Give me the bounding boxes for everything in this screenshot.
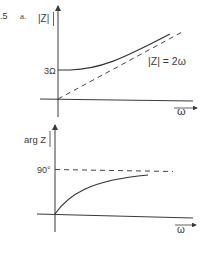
phase-curve <box>55 175 148 214</box>
asymptote-90deg <box>55 170 173 172</box>
top-x-axis-label: ω <box>177 106 186 116</box>
bottom-x-axis-label: ω <box>177 225 185 235</box>
bottom-y-axis-label: arg Z <box>24 135 46 145</box>
top-y-axis-label: |Z| <box>38 14 49 24</box>
plots-canvas <box>0 0 224 254</box>
bottom-y-tick-90deg: 90° <box>37 165 51 175</box>
top-y-tick-3ohm: 3Ω <box>44 66 56 76</box>
bottom-x-axis <box>37 214 193 218</box>
top-x-axis <box>40 99 193 101</box>
phase-plot <box>37 125 196 232</box>
asymptote-label: |Z| = 2ω <box>148 56 186 66</box>
